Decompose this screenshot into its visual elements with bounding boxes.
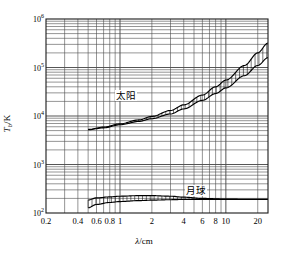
x-tick-label-5: 2 — [140, 216, 164, 226]
x-axis-title-unit: /cm — [139, 236, 153, 246]
figure-container: Tb/K λ/cm 102103104105106 0.20.40.60.812… — [0, 0, 288, 261]
grid-lines — [46, 19, 268, 213]
y-tick-exponent: 6 — [41, 13, 44, 19]
y-tick-exponent: 4 — [41, 110, 44, 116]
y-tick-base: 10 — [33, 15, 41, 24]
y-tick-label-3: 105 — [16, 62, 44, 73]
y-tick-exponent: 3 — [41, 159, 44, 165]
y-tick-label-2: 104 — [16, 110, 44, 121]
x-axis-title: λ/cm — [0, 236, 288, 246]
y-tick-base: 10 — [33, 160, 41, 169]
y-axis-title-rest: /K — [2, 115, 12, 124]
y-axis-title-sub: b — [6, 124, 13, 127]
y-tick-label-4: 106 — [16, 13, 44, 24]
y-axis-title-wrap: Tb/K — [0, 96, 14, 156]
y-tick-exponent: 5 — [41, 62, 44, 68]
y-tick-label-1: 103 — [16, 159, 44, 170]
y-tick-exponent: 2 — [41, 207, 44, 213]
curve-label-sun: 太阳 — [115, 90, 137, 101]
x-tick-label-10: 20 — [246, 216, 270, 226]
y-axis-title: Tb/K — [2, 96, 13, 152]
x-tick-label-9: 10 — [214, 216, 238, 226]
x-tick-label-0: 0.2 — [34, 216, 58, 226]
x-tick-label-4: 1 — [108, 216, 132, 226]
y-tick-base: 10 — [33, 63, 41, 72]
y-axis-title-main: T — [2, 127, 12, 132]
y-tick-base: 10 — [33, 112, 41, 121]
curve-label-moon: 月球 — [185, 185, 207, 196]
